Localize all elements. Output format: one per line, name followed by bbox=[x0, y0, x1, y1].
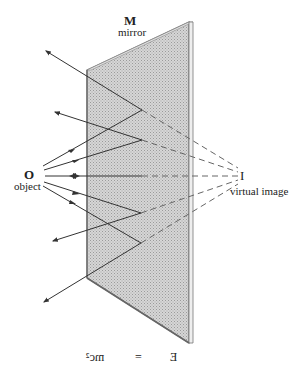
mirror-panel bbox=[87, 22, 193, 343]
reflected-equals: = bbox=[135, 350, 142, 365]
reflected-equation-right: E bbox=[170, 350, 177, 365]
reflected-equation-left: mc² bbox=[86, 350, 104, 365]
image-label: virtual image bbox=[230, 185, 288, 197]
mirror-label: mirror bbox=[118, 26, 146, 38]
object-label: object bbox=[14, 180, 41, 192]
image-letter: I bbox=[240, 168, 244, 184]
reflected-e: E bbox=[170, 350, 177, 365]
reflected-mc2: mc² bbox=[86, 350, 104, 365]
